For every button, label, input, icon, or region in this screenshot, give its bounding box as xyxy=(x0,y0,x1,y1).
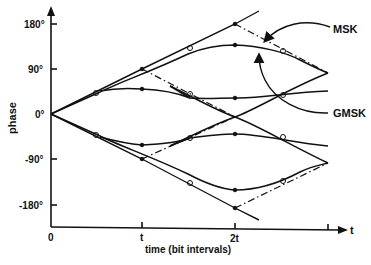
y-tick-label-m90: -90° xyxy=(25,154,43,165)
gmsk-curves xyxy=(51,45,328,190)
x-axis xyxy=(51,227,340,230)
y-tick-label-90: 90° xyxy=(28,64,43,75)
y-tick-label-m180: -180° xyxy=(19,200,43,211)
msk-dashdot-lines xyxy=(142,24,328,208)
y-axis-label: phase xyxy=(6,102,18,134)
y-axis-arrow-icon xyxy=(47,6,55,16)
axes xyxy=(47,6,348,234)
msk-arrow-icon xyxy=(265,23,330,41)
y-tick-label-0: 0° xyxy=(35,109,45,120)
phase-trellis-diagram: MSK GMSK 180° 90° 0° -90° -180° phase 0 … xyxy=(0,0,371,265)
gmsk-arrow-icon xyxy=(259,55,328,113)
sample-markers xyxy=(94,22,286,210)
x-origin-label: 0 xyxy=(48,232,54,243)
x-tick-label-2t: 2t xyxy=(230,233,240,244)
msk-label: MSK xyxy=(333,23,358,35)
x-axis-label: time (bit intervals) xyxy=(145,244,231,255)
gmsk-label: GMSK xyxy=(333,107,366,119)
x-axis-end-label: t xyxy=(350,224,354,236)
y-tick-label-180: 180° xyxy=(24,19,45,30)
x-tick-label-t: t xyxy=(140,232,144,243)
x-axis-arrow-icon xyxy=(338,226,348,234)
annotation-arrows xyxy=(259,23,330,113)
